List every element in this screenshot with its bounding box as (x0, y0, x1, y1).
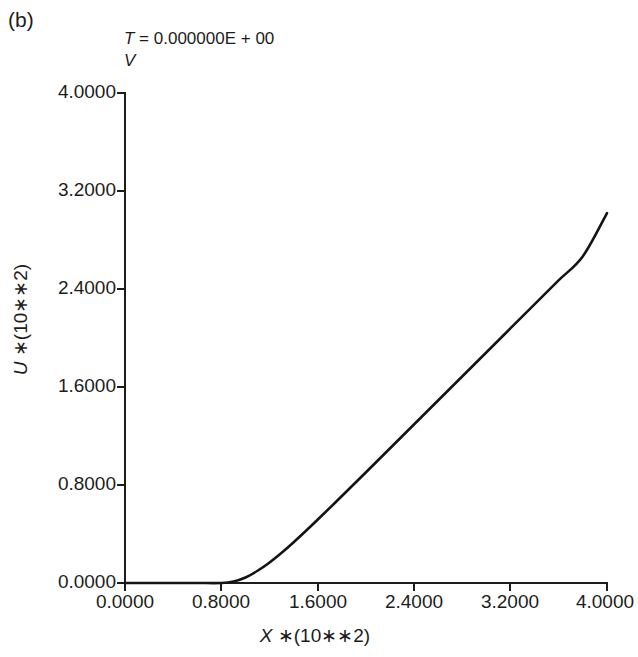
x-tick-label-0: 0.0000 (70, 591, 180, 613)
x-tick-label-4: 3.2000 (455, 591, 565, 613)
x-axis-title: X ∗(10∗∗2) (0, 624, 630, 647)
y-axis-title: U ∗(10∗∗2) (9, 220, 32, 420)
x-tick-label-5: 4.0000 (550, 591, 638, 613)
x-tick-label-3: 2.4000 (359, 591, 469, 613)
data-curve (125, 213, 607, 583)
y-tick-label-5: 4.0000 (16, 81, 116, 105)
x-tick-label-1: 0.8000 (166, 591, 276, 613)
y-axis-title-units: ∗(10∗∗2) (10, 264, 31, 362)
x-axis-title-units: ∗(10∗∗2) (273, 625, 371, 646)
y-tick-label-4: 3.2000 (16, 179, 116, 203)
x-axis-title-variable: X (260, 625, 273, 646)
y-axis-title-variable: U (10, 361, 31, 375)
y-tick-label-1: 0.8000 (16, 473, 116, 497)
x-tick-label-2: 1.6000 (263, 591, 373, 613)
